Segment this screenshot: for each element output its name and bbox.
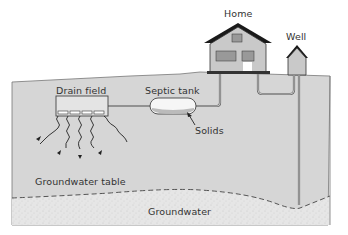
drain-field-icon bbox=[56, 96, 108, 116]
label-septic-tank: Septic tank bbox=[145, 85, 200, 96]
septic-tank-icon bbox=[150, 98, 196, 114]
home-icon bbox=[204, 23, 272, 74]
label-well: Well bbox=[286, 31, 306, 42]
label-drain-field: Drain field bbox=[56, 85, 106, 96]
label-solids: Solids bbox=[195, 125, 224, 136]
well-icon bbox=[286, 45, 308, 75]
label-home: Home bbox=[224, 8, 252, 19]
label-groundwater-table: Groundwater table bbox=[35, 176, 126, 187]
label-groundwater: Groundwater bbox=[148, 206, 211, 217]
